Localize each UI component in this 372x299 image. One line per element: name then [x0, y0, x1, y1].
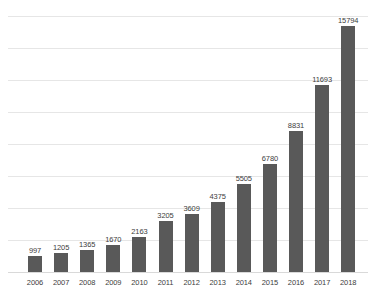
- bar-value-label: 6780: [262, 154, 278, 163]
- bar-value-label: 8831: [288, 121, 304, 130]
- bar-value-label: 3609: [183, 204, 199, 213]
- bar[interactable]: [80, 250, 94, 272]
- bar-column[interactable]: 3609: [179, 16, 205, 272]
- bar-column[interactable]: 1205: [48, 16, 74, 272]
- bar[interactable]: [315, 85, 329, 272]
- bar-group[interactable]: 88312016: [283, 16, 309, 272]
- x-axis-label: 2008: [74, 277, 100, 288]
- bar-group[interactable]: 16702009: [100, 16, 126, 272]
- bar-group[interactable]: 67802015: [257, 16, 283, 272]
- bar-column[interactable]: 5505: [231, 16, 257, 272]
- bar-value-label: 11693: [312, 75, 332, 84]
- bar-value-label: 2163: [131, 227, 147, 236]
- bar-column[interactable]: 11693: [309, 16, 335, 272]
- bar-column[interactable]: 8831: [283, 16, 309, 272]
- bar-value-label: 997: [29, 246, 41, 255]
- bar-group[interactable]: 43752013: [205, 16, 231, 272]
- bar-column[interactable]: 1670: [100, 16, 126, 272]
- bar[interactable]: [106, 245, 120, 272]
- x-axis-label: 2015: [257, 277, 283, 288]
- bar[interactable]: [132, 237, 146, 272]
- bar[interactable]: [185, 214, 199, 272]
- bar[interactable]: [289, 131, 303, 272]
- bar-value-label: 1365: [79, 240, 95, 249]
- bar[interactable]: [341, 26, 355, 272]
- bar-group[interactable]: 36092012: [179, 16, 205, 272]
- bar[interactable]: [263, 164, 277, 272]
- bar[interactable]: [159, 221, 173, 272]
- bar-column[interactable]: 3205: [153, 16, 179, 272]
- plot-area: 9972006120520071365200816702009216320103…: [0, 0, 372, 299]
- bar-group[interactable]: 13652008: [74, 16, 100, 272]
- bar-value-label: 15794: [338, 16, 358, 25]
- bar-column[interactable]: 2163: [126, 16, 152, 272]
- bar-column[interactable]: 6780: [257, 16, 283, 272]
- x-axis-label: 2014: [231, 277, 257, 288]
- bar-column[interactable]: 1365: [74, 16, 100, 272]
- bar[interactable]: [237, 184, 251, 272]
- x-axis-label: 2011: [153, 277, 179, 288]
- bar-column[interactable]: 997: [22, 16, 48, 272]
- bar-group[interactable]: 21632010: [126, 16, 152, 272]
- bar-group[interactable]: 116932017: [309, 16, 335, 272]
- bar-group[interactable]: 9972006: [22, 16, 48, 272]
- bar-value-label: 5505: [236, 174, 252, 183]
- x-axis-label: 2018: [335, 277, 361, 288]
- bar-column[interactable]: 15794: [335, 16, 361, 272]
- x-axis-label: 2017: [309, 277, 335, 288]
- bar-chart: 9972006120520071365200816702009216320103…: [0, 0, 372, 299]
- bar-value-label: 1205: [53, 243, 69, 252]
- x-axis-label: 2013: [205, 277, 231, 288]
- bar-value-label: 3205: [157, 211, 173, 220]
- x-axis-label: 2007: [48, 277, 74, 288]
- bar[interactable]: [28, 256, 42, 272]
- bar-group[interactable]: 55052014: [231, 16, 257, 272]
- x-axis-label: 2010: [126, 277, 152, 288]
- bar-group[interactable]: 157942018: [335, 16, 361, 272]
- bar[interactable]: [54, 253, 68, 272]
- bar-group[interactable]: 12052007: [48, 16, 74, 272]
- bar[interactable]: [211, 202, 225, 272]
- bar-group[interactable]: 32052011: [153, 16, 179, 272]
- x-axis-label: 2009: [100, 277, 126, 288]
- x-axis-label: 2016: [283, 277, 309, 288]
- bar-value-label: 1670: [105, 235, 121, 244]
- x-axis-label: 2012: [179, 277, 205, 288]
- x-axis-label: 2006: [22, 277, 48, 288]
- bar-column[interactable]: 4375: [205, 16, 231, 272]
- bar-value-label: 4375: [210, 192, 226, 201]
